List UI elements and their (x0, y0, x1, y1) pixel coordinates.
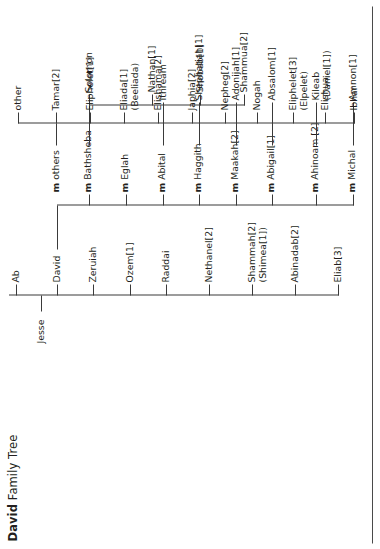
connector-bathsheba-stem (89, 105, 90, 145)
node-ozem-label: Ozem[1] (124, 242, 135, 282)
node-nogah: Nogah (251, 80, 262, 110)
node-ozem: Ozem[1] (124, 242, 135, 282)
node-jesse: Jesse (35, 319, 46, 343)
connector-wife-ahinoam (316, 194, 317, 205)
node-shammah-alt: (Shimea[1]) (257, 222, 268, 282)
connector-raddai (166, 284, 167, 295)
connector-wife-michal (353, 194, 354, 205)
node-raddai: Raddai (160, 250, 171, 282)
node-eliphelet3-label: Eliphelet[3] (287, 56, 298, 110)
connector-child-japhia (192, 112, 193, 123)
node-eliphelet3-alt: (Elpelet) (298, 56, 309, 110)
node-shammah-label: Shammah[2] (246, 222, 257, 282)
connector-wife-abigail (272, 194, 273, 205)
connector-wife-abital (163, 194, 164, 205)
node-abigail-sister: Ab (10, 270, 21, 282)
node-abinadab-label: Abinadab[2] (289, 225, 300, 282)
connector-child-other (18, 112, 19, 123)
node-eliab: Eliab[3] (332, 246, 343, 282)
marriage-marker-icon: m (346, 182, 357, 192)
node-eliab-label: Eliab[3] (332, 246, 343, 282)
marriage-marker-icon: m (156, 182, 167, 192)
marriage-marker-icon: m (50, 182, 61, 192)
connector-wife-maakah (236, 194, 237, 205)
connector-nethanel (209, 284, 210, 295)
connector-david-stem (57, 205, 58, 249)
marriage-marker-icon: m (82, 182, 93, 192)
node-japhia-label: Japhia[2] (186, 68, 197, 110)
connector-abigail-sister (16, 284, 17, 295)
spouse-bus-david (57, 204, 354, 205)
node-elishama-label: Elishama[2] (152, 55, 163, 110)
node-wife-others-label: others (50, 150, 61, 180)
connector-jesse-stem (41, 295, 42, 311)
node-jesse-label: Jesse (35, 319, 46, 343)
node-eliphelet1: Eliphelet[1] (84, 56, 95, 110)
node-absalom-label: Absalom[1] (266, 47, 277, 100)
connector-child-tamar (56, 112, 57, 123)
connector-shammah (252, 284, 253, 295)
node-wife-haggith-label: Haggith (192, 143, 203, 180)
sibling-bus-others (18, 122, 355, 123)
node-nogah-label: Nogah (251, 80, 262, 110)
node-eliada: Eliada[1] (Beeliada) (118, 62, 140, 110)
node-elishua: Elishua (319, 77, 330, 110)
sibling-bus-jesse (9, 294, 339, 295)
connector-child-ithream (163, 102, 164, 145)
node-ibhar: Ibhar (348, 86, 359, 110)
node-elishama: Elishama[2] (152, 55, 163, 110)
connector-eliab (338, 284, 339, 295)
node-nepheg: Nepheg[2] (219, 61, 230, 110)
node-tamar-label: Tamar[2] (50, 68, 61, 110)
node-eliphelet3: Eliphelet[3] (Elpelet) (287, 56, 309, 110)
connector-child-shammua (244, 94, 245, 105)
connector-child-kileab (316, 102, 317, 145)
node-shammah: Shammah[2] (Shimea[1]) (246, 222, 268, 282)
connector-child-elishama (158, 112, 159, 123)
node-wife-michal-label: Michal (346, 149, 357, 179)
marriage-marker-icon: m (309, 182, 320, 192)
node-zeruiah: Zeruiah (87, 246, 98, 282)
node-shammua-label: Shammua[2] (238, 32, 249, 92)
node-raddai-label: Raddai (160, 250, 171, 282)
connector-david (57, 284, 58, 295)
node-zeruiah-label: Zeruiah (87, 246, 98, 282)
node-elishua-label: Elishua (319, 77, 330, 110)
node-abigail-sister-label: Ab (10, 270, 21, 282)
node-eliada-alt: (Beeliada) (129, 62, 140, 110)
node-wife-michal: m Michal (347, 149, 358, 192)
node-nethanel: Nethanel[2] (203, 227, 214, 282)
title-rest: Family Tree (6, 434, 20, 503)
node-wife-ahinoam-label: Ahinoam [2] (309, 122, 320, 179)
connector-child-shephatiah (199, 102, 200, 145)
footer-divider (372, 6, 373, 543)
node-wife-eglah: m Eglah (120, 153, 131, 192)
title-bold: David (6, 504, 20, 541)
node-other: other (12, 85, 23, 110)
node-tamar: Tamar[2] (50, 68, 61, 110)
marriage-marker-icon: m (119, 182, 130, 192)
node-shammua: Shammua[2] (238, 32, 249, 92)
connector-others-stem (56, 123, 57, 145)
node-wife-eglah-label: Eglah (119, 153, 130, 179)
connector-wife-bathsheba (89, 194, 90, 205)
node-ibhar-label: Ibhar (348, 86, 359, 110)
marriage-marker-icon: m (192, 182, 203, 192)
connector-child-elishua (325, 112, 326, 123)
node-eliphelet1-label: Eliphelet[1] (84, 56, 95, 110)
connector-child-nepheg (225, 112, 226, 123)
connector-child-ibhar (354, 112, 355, 123)
node-nepheg-label: Nepheg[2] (219, 61, 230, 110)
node-wife-abital-label: Abital (156, 153, 167, 180)
connector-child-absalom (272, 102, 273, 145)
node-eliada-label: Eliada[1] (118, 68, 129, 110)
connector-child-eliphelet1 (90, 112, 91, 123)
marriage-marker-icon: m (229, 182, 240, 192)
connector-child-adonijah (236, 102, 237, 145)
node-wife-haggith: m Haggith (193, 143, 204, 192)
node-absalom: Absalom[1] (266, 47, 277, 100)
page-title: David Family Tree (6, 434, 20, 541)
connector-abinadab (295, 284, 296, 295)
connector-child-nogah (257, 112, 258, 123)
node-wife-abital: m Abital (157, 153, 168, 192)
